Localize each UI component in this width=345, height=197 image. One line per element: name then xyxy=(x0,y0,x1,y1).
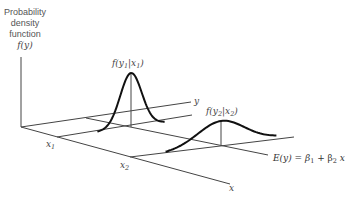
curve2-label: f(y2|x2) xyxy=(206,106,238,119)
curve2-label-post: ) xyxy=(234,106,238,116)
curve1-label-post: ) xyxy=(140,58,144,68)
regression-label-post: x xyxy=(337,153,345,163)
regression-label-mid: + β xyxy=(314,153,332,163)
curve2-label-mid: |x xyxy=(222,106,230,116)
x-axis xyxy=(21,127,230,184)
regression-line xyxy=(86,118,268,155)
curve1-label-mid: |x xyxy=(128,58,136,68)
curve2-label-pre: f(y xyxy=(206,106,218,116)
x-axis-label: x xyxy=(229,183,234,193)
fy-label-line-2: density xyxy=(0,18,60,29)
x2-guide-line xyxy=(130,137,294,157)
fy-label-line-4: f(y) xyxy=(0,40,60,51)
fy-axis-label: Probability density function f(y) xyxy=(0,7,60,51)
x1-label-sub: 1 xyxy=(51,143,55,151)
regression-label-pre: E(y) = β xyxy=(273,153,310,163)
x1-label: x1 xyxy=(46,139,55,152)
fy-label-line-3: function xyxy=(0,29,60,40)
curve1-label: f(y1|x1) xyxy=(112,58,144,71)
curve1-label-pre: f(y xyxy=(112,58,124,68)
y-axis xyxy=(21,102,191,127)
y-axis-label: y xyxy=(194,96,199,106)
fy-label-line-1: Probability xyxy=(0,7,60,18)
regression-label: E(y) = β1 + β2 x xyxy=(273,153,345,166)
x2-label: x2 xyxy=(120,160,129,173)
x2-label-sub: 2 xyxy=(125,164,129,172)
